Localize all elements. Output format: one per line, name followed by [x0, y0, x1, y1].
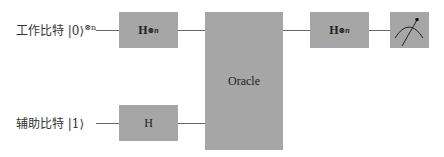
gate-exponent: ⊗n — [339, 25, 350, 35]
wire-bottom-2 — [178, 123, 205, 124]
wire-bottom-1 — [96, 123, 119, 124]
gate-label: H — [144, 116, 153, 131]
working-qubit-label: 工作比特 |0⟩⊗n — [16, 21, 96, 38]
oracle-label: Oracle — [228, 74, 260, 89]
meter-icon — [390, 12, 429, 48]
working-qubit-text: 工作比特 |0⟩ — [16, 24, 84, 38]
ancilla-qubit-text: 辅助比特 |1⟩ — [16, 117, 84, 131]
oracle-gate: Oracle — [205, 12, 283, 150]
hadamard-gate: H — [119, 105, 178, 141]
wire-top-2 — [178, 30, 205, 31]
working-qubit-exponent: ⊗n — [84, 23, 96, 32]
measurement-gate — [390, 12, 429, 48]
wire-top-1 — [96, 30, 119, 31]
hadamard-n-gate-2: H⊗n — [310, 12, 369, 48]
hadamard-n-gate-1: H⊗n — [119, 12, 178, 48]
wire-top-4 — [369, 30, 390, 31]
gate-exponent: ⊗n — [148, 25, 159, 35]
wire-top-3 — [283, 30, 310, 31]
gate-label: H — [329, 23, 338, 38]
gate-label: H — [138, 23, 147, 38]
ancilla-qubit-label: 辅助比特 |1⟩ — [16, 114, 84, 131]
